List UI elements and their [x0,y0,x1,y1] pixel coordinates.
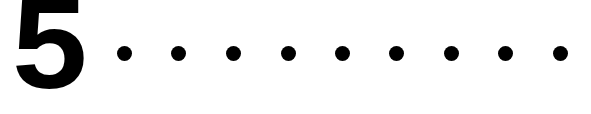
leader-dot [281,46,296,61]
leader-dot [389,46,404,61]
leader-dot [226,46,241,61]
leader-dot [444,46,459,61]
leader-dot [553,46,568,61]
dot-leader [0,0,591,114]
leader-dot [171,46,186,61]
leader-dot [117,46,132,61]
numeral-dot-leader-figure: 5 [0,0,591,114]
leader-dot [335,46,350,61]
leader-dot [498,46,513,61]
